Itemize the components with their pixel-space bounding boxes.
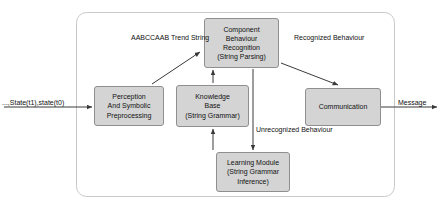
node-knowledge-base[interactable]: Knowledge Base (String Grammar) (176, 85, 249, 127)
node-line: Inference) (237, 177, 269, 186)
edge-recognition-to-communication (281, 63, 338, 85)
node-learning-module[interactable]: Learning Module (String Grammar Inferenc… (216, 152, 290, 192)
node-communication[interactable]: Communication (305, 88, 381, 126)
label-line: String (191, 34, 209, 41)
label-line: Trend (171, 34, 189, 41)
label-line: Behaviour (333, 34, 365, 41)
label-input-state: ...,State(t1),state(t0) (2, 98, 64, 107)
label-message: Message (398, 98, 426, 107)
node-line: (String Grammar (227, 167, 279, 176)
node-line: And Symbolic (108, 101, 151, 110)
label-trend-string: AABCCAAB Trend String (131, 33, 193, 42)
node-line: (String Parsing) (217, 52, 266, 61)
node-line: Behaviour (226, 34, 258, 43)
node-line: Component (223, 25, 259, 34)
label-recognized-behaviour: Recognized Behaviour (294, 33, 362, 42)
label-line: Recognized (294, 34, 331, 41)
node-line: Knowledge (195, 92, 230, 101)
label-line: Unrecognized (256, 126, 299, 133)
node-perception-and-symbolic-preprocessing[interactable]: Perception And Symbolic Preprocessing (94, 86, 164, 126)
label-line: Behaviour (301, 126, 333, 133)
node-line: Learning Module (227, 158, 279, 167)
label-line: AABCCAAB (131, 34, 169, 41)
label-line: Message (398, 99, 426, 106)
edge-perception-to-recognition (152, 52, 200, 84)
label-line: ...,State(t1),state(t0) (2, 99, 64, 106)
node-component-behaviour-recognition[interactable]: Component Behaviour Recognition (String … (204, 18, 279, 68)
node-line: Communication (319, 102, 368, 111)
node-line: Recognition (223, 43, 260, 52)
node-line: (String Grammar) (185, 111, 239, 120)
node-line: Perception (112, 92, 145, 101)
label-unrecognized-behaviour: Unrecognized Behaviour (256, 125, 324, 134)
diagram-canvas: Perception And Symbolic Preprocessing Co… (0, 0, 448, 211)
node-line: Preprocessing (107, 111, 152, 120)
node-line: Base (205, 101, 221, 110)
